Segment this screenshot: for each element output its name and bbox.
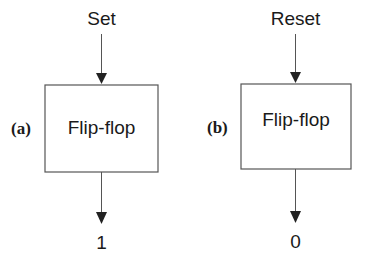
flip-flop-label-b: Flip-flop [262, 110, 330, 129]
output-value-b: 0 [290, 232, 301, 251]
flip-flop-diagram: Set (a) Flip-flop 1 Reset (b) Flip-flop … [0, 0, 368, 258]
flip-flop-label-a: Flip-flop [68, 118, 136, 137]
input-arrowhead-a-icon [96, 73, 107, 84]
output-arrowhead-a-icon [96, 212, 107, 224]
output-arrowhead-b-icon [290, 211, 301, 223]
set-input-label: Set [87, 9, 116, 28]
panel-a-label: (a) [11, 120, 31, 137]
input-arrowhead-b-icon [290, 72, 301, 83]
output-value-a: 1 [96, 233, 107, 252]
reset-input-label: Reset [271, 9, 321, 28]
panel-b-label: (b) [207, 119, 228, 136]
